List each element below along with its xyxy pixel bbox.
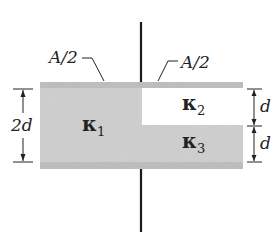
top-plate	[40, 82, 243, 88]
dimension-d-top-label: d	[260, 96, 271, 116]
area-leader-right	[158, 61, 178, 81]
area-leader-left	[82, 58, 104, 81]
capacitor-diagram: A/2 A/2 κ1 κ2 κ3 2d d d	[0, 0, 279, 236]
dimension-2d-label: 2d	[10, 115, 33, 135]
area-label-left: A/2	[47, 47, 78, 67]
area-label-right: A/2	[179, 52, 210, 72]
bottom-plate	[40, 162, 243, 169]
kappa1-edge	[138, 88, 142, 125]
dimension-d-bottom-label: d	[260, 133, 271, 153]
